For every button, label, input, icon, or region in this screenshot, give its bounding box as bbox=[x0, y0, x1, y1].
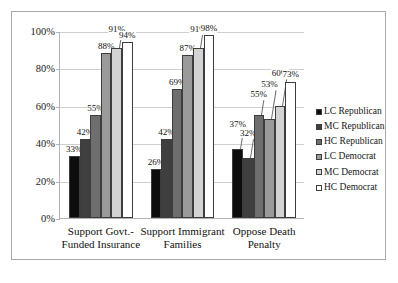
bar[interactable] bbox=[172, 89, 183, 218]
bar-slot: 33% bbox=[69, 32, 80, 218]
bar-slot: 91% bbox=[111, 32, 122, 218]
bar-group: 37%32%55%53%60%73% bbox=[232, 32, 296, 218]
y-axis-tick-label: 40% bbox=[36, 139, 55, 150]
bar-slot: 53% bbox=[264, 32, 275, 218]
caption-strip bbox=[12, 268, 386, 280]
y-axis-tick-label: 80% bbox=[36, 64, 55, 75]
bar[interactable] bbox=[232, 149, 243, 218]
bar-value-label: 94% bbox=[119, 31, 137, 40]
bar[interactable] bbox=[264, 119, 275, 218]
bar-slot: 60% bbox=[275, 32, 286, 218]
bar-slot: 32% bbox=[243, 32, 254, 218]
legend-item[interactable]: LC Republican bbox=[316, 104, 386, 119]
legend-item-label: LC Republican bbox=[324, 107, 382, 117]
legend-item[interactable]: MC Republican bbox=[316, 119, 386, 134]
bar[interactable] bbox=[111, 48, 122, 218]
bar-slot: 87% bbox=[182, 32, 193, 218]
bar[interactable] bbox=[204, 35, 215, 218]
bar[interactable] bbox=[275, 106, 286, 218]
y-axis-tick-label: 20% bbox=[36, 176, 55, 187]
plot-area: 0%20%40%60%80%100% 33%42%55%88%91%94%26%… bbox=[59, 32, 304, 219]
bar[interactable] bbox=[161, 139, 172, 218]
bar[interactable] bbox=[101, 53, 112, 218]
bar-value-label: 98% bbox=[200, 24, 218, 33]
bar-slot: 42% bbox=[161, 32, 172, 218]
legend-swatch-icon bbox=[316, 154, 322, 160]
bar[interactable] bbox=[254, 115, 265, 218]
bar-slot: 37% bbox=[232, 32, 243, 218]
x-axis-category-label-line: Penalty bbox=[209, 238, 319, 251]
bars-layer: 33%42%55%88%91%94%26%42%69%87%91%98%37%3… bbox=[60, 32, 304, 218]
bar-slot: 55% bbox=[254, 32, 265, 218]
bar[interactable] bbox=[80, 139, 91, 218]
bar-group: 26%42%69%87%91%98% bbox=[151, 32, 215, 218]
legend-item-label: LC Democrat bbox=[324, 152, 376, 162]
legend-item-label: MC Republican bbox=[324, 122, 384, 132]
bar-value-label: 73% bbox=[282, 70, 300, 79]
bar[interactable] bbox=[69, 156, 80, 218]
x-axis-category-label-line: Oppose Death bbox=[209, 225, 319, 238]
legend-item[interactable]: LC Democrat bbox=[316, 150, 386, 165]
y-axis-tick-label: 100% bbox=[31, 27, 56, 38]
x-axis-category-label: Oppose DeathPenalty bbox=[209, 225, 319, 251]
bar[interactable] bbox=[193, 48, 204, 218]
legend-item-label: HC Democrat bbox=[324, 183, 377, 193]
legend-item[interactable]: HC Republican bbox=[316, 134, 386, 149]
chart-frame: 0%20%40%60%80%100% 33%42%55%88%91%94%26%… bbox=[11, 11, 386, 260]
legend-swatch-icon bbox=[316, 185, 322, 191]
bar[interactable] bbox=[151, 169, 162, 218]
bar-slot: 42% bbox=[80, 32, 91, 218]
y-axis-tick-mark bbox=[56, 219, 60, 220]
bar-slot: 98% bbox=[204, 32, 215, 218]
y-axis-tick-label: 60% bbox=[36, 102, 55, 113]
legend-item[interactable]: MC Democrat bbox=[316, 165, 386, 180]
bar[interactable] bbox=[243, 158, 254, 218]
legend-swatch-icon bbox=[316, 109, 322, 115]
bar[interactable] bbox=[122, 42, 133, 218]
bar[interactable] bbox=[285, 82, 296, 219]
bar-slot: 26% bbox=[151, 32, 162, 218]
chart-legend: LC RepublicanMC RepublicanHC RepublicanL… bbox=[316, 104, 386, 195]
bar-slot: 73% bbox=[285, 32, 296, 218]
bar-slot: 94% bbox=[122, 32, 133, 218]
bar[interactable] bbox=[90, 115, 101, 218]
legend-item-label: HC Republican bbox=[324, 137, 383, 147]
chart-figure: 0%20%40%60%80%100% 33%42%55%88%91%94%26%… bbox=[0, 0, 398, 283]
y-axis-tick-label: 0% bbox=[41, 214, 55, 225]
legend-swatch-icon bbox=[316, 124, 322, 130]
bar-slot: 91% bbox=[193, 32, 204, 218]
bar-slot: 88% bbox=[101, 32, 112, 218]
legend-swatch-icon bbox=[316, 169, 322, 175]
bar[interactable] bbox=[182, 55, 193, 218]
bar-slot: 69% bbox=[172, 32, 183, 218]
legend-item[interactable]: HC Democrat bbox=[316, 180, 386, 195]
bar-slot: 55% bbox=[90, 32, 101, 218]
bar-group: 33%42%55%88%91%94% bbox=[69, 32, 133, 218]
legend-item-label: MC Democrat bbox=[324, 168, 379, 178]
legend-swatch-icon bbox=[316, 139, 322, 145]
